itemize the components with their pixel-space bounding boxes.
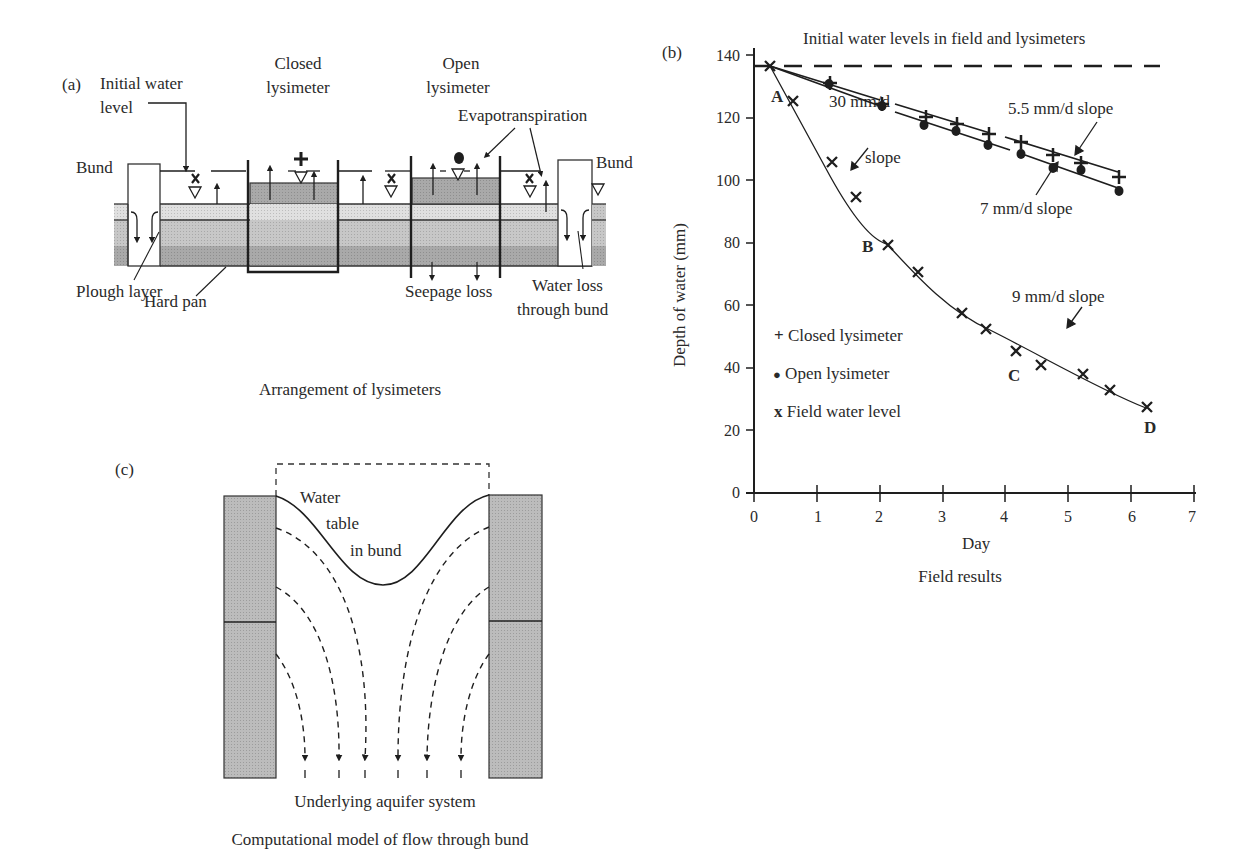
field-results-chart [0, 0, 1249, 862]
